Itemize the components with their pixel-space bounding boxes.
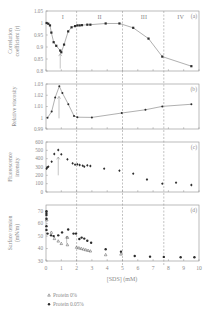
data-point — [76, 116, 78, 118]
y-tick-label: 400 — [35, 155, 43, 161]
data-point — [104, 248, 106, 250]
panel-tag: (c) — [191, 144, 197, 151]
data-point — [193, 256, 195, 258]
y-tick-label: 0 — [40, 189, 43, 195]
y-axis-label: Correlation — [7, 28, 13, 54]
y-tick-label: 0.95 — [34, 32, 43, 38]
x-axis-label: [SDS] (mM) — [107, 276, 138, 283]
y-tick-label: 60 — [38, 220, 44, 226]
y-tick-label: 1.05 — [34, 8, 43, 14]
data-point — [45, 217, 47, 219]
region-label: II — [97, 13, 101, 20]
data-point — [53, 41, 55, 43]
y-axis-label: Surface tension — [7, 215, 13, 250]
y-tick-label: 500 — [35, 147, 43, 153]
y-tick-label: 100 — [35, 180, 43, 186]
data-point — [179, 256, 181, 258]
data-point — [118, 22, 120, 24]
data-point — [132, 27, 134, 29]
legend-label: Protein 0.05% — [53, 301, 84, 307]
data-point — [54, 97, 56, 99]
data-point — [52, 235, 54, 237]
y-axis-label: intensity — [14, 157, 20, 176]
data-point — [89, 24, 91, 26]
data-point — [47, 117, 49, 119]
data-point — [81, 24, 83, 26]
data-point — [134, 255, 136, 257]
x-tick-label: 6 — [136, 265, 139, 271]
data-point — [76, 24, 78, 26]
data-point — [163, 256, 165, 258]
data-point — [86, 24, 88, 26]
legend-item: Protein 0.05% — [48, 301, 85, 307]
data-point — [147, 38, 149, 40]
x-tick-label: 4 — [106, 265, 109, 271]
region-label: III — [141, 13, 147, 20]
y-tick-label: 1.03 — [34, 81, 43, 87]
data-point — [63, 44, 65, 46]
y-tick-label: 1.02 — [34, 92, 43, 98]
data-point — [67, 228, 69, 230]
x-tick-label: 8 — [167, 265, 170, 271]
data-point — [86, 240, 88, 242]
data-point — [45, 225, 47, 227]
data-point — [75, 232, 77, 234]
figure-background — [0, 0, 213, 320]
y-tick-label: 70 — [38, 208, 44, 214]
data-point — [60, 51, 62, 53]
y-axis-label: Relative viscosity — [11, 86, 17, 126]
data-point — [73, 115, 75, 117]
y-tick-label: 0.85 — [34, 56, 43, 62]
data-point — [79, 24, 81, 26]
y-tick-label: 0.99 — [34, 126, 43, 132]
data-point — [90, 242, 92, 244]
panel-tag: (a) — [191, 13, 197, 20]
data-point — [161, 105, 163, 107]
data-point — [61, 92, 63, 94]
y-tick-label: 30 — [38, 258, 44, 264]
legend-marker-icon — [48, 303, 50, 305]
data-point — [67, 103, 69, 105]
data-point — [45, 229, 47, 231]
data-point — [144, 109, 146, 111]
data-point — [105, 22, 107, 24]
y-tick-label: 50 — [38, 233, 44, 239]
data-point — [67, 30, 69, 32]
legend-item: Protein 0% — [48, 292, 78, 298]
x-tick-label: 3 — [91, 265, 94, 271]
data-point — [46, 232, 48, 234]
x-tick-label: 5 — [121, 265, 124, 271]
y-tick-label: 0.8 — [37, 68, 44, 74]
data-point — [74, 25, 76, 27]
y-tick-label: 600 — [35, 139, 43, 145]
y-tick-label: 40 — [38, 245, 44, 251]
y-axis-label: Fluorescence — [7, 152, 13, 182]
data-point — [49, 24, 51, 26]
y-tick-label: 300 — [35, 164, 43, 170]
data-point — [50, 32, 52, 34]
data-point — [83, 237, 85, 239]
x-tick-label: 9 — [182, 265, 185, 271]
data-point — [51, 111, 53, 113]
data-point — [55, 45, 57, 47]
region-label: I — [62, 13, 64, 20]
y-tick-label: 200 — [35, 172, 43, 178]
x-tick-label: 2 — [75, 265, 78, 271]
figure: 0.80.850.90.9511.05Correlationcoefficien… — [0, 0, 213, 320]
data-point — [149, 255, 151, 257]
data-point — [91, 116, 93, 118]
data-point — [70, 26, 72, 28]
data-point — [121, 112, 123, 114]
y-tick-label: 1 — [40, 115, 43, 121]
data-point — [190, 65, 192, 67]
data-point — [78, 238, 80, 240]
y-tick-label: 1.01 — [34, 103, 43, 109]
x-tick-label: 1 — [60, 265, 63, 271]
x-tick-label: 0 — [45, 265, 48, 271]
data-point — [80, 236, 82, 238]
legend-label: Protein 0% — [53, 292, 78, 298]
y-tick-label: 0.9 — [37, 44, 44, 50]
data-point — [50, 234, 52, 236]
x-tick-label: 10 — [196, 265, 202, 271]
data-point — [72, 232, 74, 234]
